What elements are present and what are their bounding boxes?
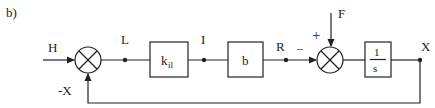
svg-text:b: b	[242, 53, 249, 68]
block-integrator: 1 s	[365, 42, 391, 77]
svg-text:il: il	[168, 60, 174, 70]
node-l	[123, 58, 127, 62]
node-i	[202, 58, 206, 62]
svg-text:k: k	[161, 53, 168, 68]
feedback-label: -X	[58, 83, 72, 98]
block-kil: k il	[150, 42, 188, 77]
panel-label: b)	[6, 5, 17, 20]
block-b: b	[228, 42, 263, 77]
disturbance-label: F	[338, 6, 345, 21]
output-label: X	[421, 39, 431, 54]
summing-junction-1	[75, 47, 101, 73]
svg-text:1: 1	[374, 46, 380, 58]
signal-r-label: R	[276, 39, 285, 54]
plus-sign: +	[312, 27, 320, 43]
minus-sign: −	[296, 42, 303, 57]
input-label: H	[48, 40, 57, 55]
signal-l-label: L	[121, 32, 129, 47]
svg-text:s: s	[373, 62, 377, 74]
node-r	[284, 58, 288, 62]
summing-junction-2	[317, 47, 343, 73]
block-diagram: b) H -X L k il I b R − F + 1	[0, 0, 435, 108]
signal-i-label: I	[201, 32, 205, 47]
